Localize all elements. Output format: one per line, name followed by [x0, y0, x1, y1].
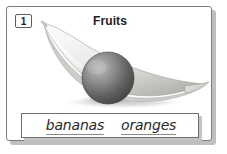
orange-specular-highlight — [87, 60, 107, 75]
answer-words-row: bananas oranges — [22, 114, 200, 139]
page-title: Fruits — [7, 14, 213, 28]
item-number-badge: 1 — [15, 14, 32, 28]
word-bananas[interactable]: bananas — [46, 118, 104, 135]
orange-fruit — [82, 52, 134, 104]
worksheet-card: 1 Fruits — [6, 6, 212, 141]
answer-box: bananas oranges — [21, 113, 199, 138]
worksheet-page: 1 Fruits — [0, 0, 227, 154]
word-oranges[interactable]: oranges — [121, 118, 176, 135]
